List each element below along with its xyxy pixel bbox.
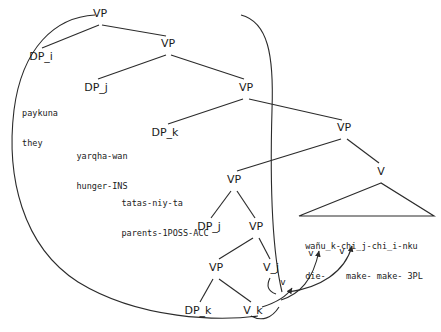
movement-label-v-2: v	[308, 248, 313, 258]
node-dp-j: DP_j	[84, 82, 108, 93]
edge-vproot-vp2	[102, 25, 166, 36]
terminal-tatas-niy-ta-line2: parents-1POSS-ACC	[122, 228, 209, 238]
edge-vp3-vp4	[249, 99, 342, 120]
terminal-yarqha-wan-line1: yarqha-wan	[76, 151, 127, 161]
edge-vp3-dpk	[168, 99, 243, 124]
node-vp-4: VP	[337, 122, 351, 133]
node-v-k: V_k	[243, 305, 262, 316]
terminal-yarqha-wan: yarqha-wan hunger-INS	[76, 131, 127, 211]
node-vp-3: VP	[239, 82, 253, 93]
node-v-head: V	[377, 166, 385, 177]
v-head-triangle	[299, 183, 434, 216]
node-vp-7: VP	[209, 262, 223, 273]
edge-vp2-dpj	[98, 55, 166, 79]
node-vp-5: VP	[227, 174, 241, 185]
edge-vp6-vp7	[219, 238, 253, 259]
terminal-paykuna: paykuna they	[22, 88, 58, 168]
edge-vp2-vp3	[171, 55, 244, 79]
node-dp-i: DP_i	[29, 51, 53, 62]
node-vp-6: VP	[249, 221, 263, 232]
edge-vp5-dpj2	[211, 191, 231, 218]
terminal-yarqha-wan-line2: hunger-INS	[76, 181, 127, 191]
edge-vp4-vp5	[237, 139, 341, 171]
movement-label-v-1: v	[280, 277, 285, 287]
node-v-j: V_j	[263, 262, 279, 273]
movement-arc-vj-spine	[268, 278, 276, 294]
edge-vp4-vhead	[347, 139, 379, 163]
movement-arrow-lines	[12, 15, 352, 319]
movement-label-v-3: v	[339, 246, 344, 256]
terminal-tatas-niy-ta-line1: tatas-niy-ta	[122, 198, 209, 208]
terminal-verb-complex: wañu_k-chi_j-chi_i-nku die- make- make- …	[305, 221, 423, 301]
terminal-paykuna-line2: they	[22, 138, 58, 148]
node-vp-root: VP	[93, 8, 107, 19]
terminal-tatas-niy-ta: tatas-niy-ta parents-1POSS-ACC	[122, 178, 209, 258]
edge-vp6-vj	[259, 238, 270, 259]
movement-arc-right	[241, 15, 282, 292]
terminal-verb-complex-line2: die- make- make- 3PL	[305, 271, 423, 281]
node-dp-k-2: DP_k	[185, 305, 212, 316]
node-dp-k: DP_k	[152, 127, 179, 138]
edge-vproot-dpi	[42, 25, 99, 48]
edge-vp7-vk	[219, 279, 251, 302]
terminal-paykuna-line1: paykuna	[22, 108, 58, 118]
edge-vp5-vp6	[237, 191, 255, 218]
syntax-tree-diagram: VP DP_i VP DP_j VP DP_k VP VP V DP_j VP …	[0, 0, 441, 332]
edge-vp7-dpk2	[200, 279, 213, 302]
terminal-verb-complex-line1: wañu_k-chi_j-chi_i-nku	[305, 241, 423, 251]
node-vp-2: VP	[161, 38, 175, 49]
